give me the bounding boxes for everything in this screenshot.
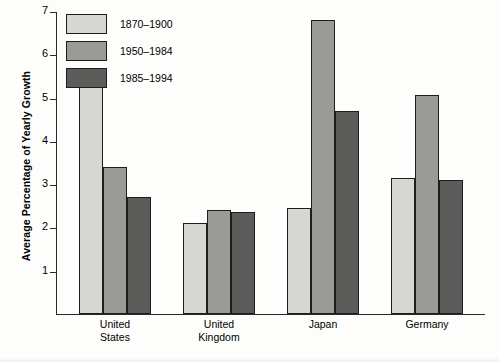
bar-japan-1950–1984 xyxy=(311,20,335,314)
y-tick-label-5: 5 xyxy=(30,91,48,103)
legend-item-2: 1985–1994 xyxy=(66,68,173,88)
bar-united-states-1870–1900 xyxy=(79,82,103,314)
bar-germany-1950–1984 xyxy=(415,95,439,314)
bar-chart: Average Percentage of Yearly Growth 7654… xyxy=(0,0,499,362)
x-label-line: Germany xyxy=(372,318,482,331)
x-label-line: Kingdom xyxy=(164,331,274,344)
bar-group-japan xyxy=(287,12,359,314)
x-label-united-states: UnitedStates xyxy=(60,318,170,343)
scan-edge-artifact xyxy=(0,356,499,362)
y-axis-title: Average Percentage of Yearly Growth xyxy=(20,36,32,296)
legend-label-0: 1870–1900 xyxy=(120,18,173,30)
y-tick-label-7: 7 xyxy=(30,4,48,16)
legend-swatch-1 xyxy=(66,41,107,61)
y-tick-6 xyxy=(50,55,57,56)
legend-swatch-2 xyxy=(66,68,107,88)
legend-swatch-0 xyxy=(66,14,107,34)
y-tick-2 xyxy=(50,228,57,229)
x-label-line: United xyxy=(60,318,170,331)
bar-group-germany xyxy=(391,12,463,314)
x-label-line: United xyxy=(164,318,274,331)
bar-japan-1870–1900 xyxy=(287,208,311,314)
bar-united-states-1985–1994 xyxy=(127,197,151,314)
y-tick-4 xyxy=(50,142,57,143)
legend-item-0: 1870–1900 xyxy=(66,14,173,34)
bar-group-united-kingdom xyxy=(183,12,255,314)
bar-germany-1870–1900 xyxy=(391,178,415,314)
legend-label-1: 1950–1984 xyxy=(120,45,173,57)
bar-united-kingdom-1950–1984 xyxy=(207,210,231,314)
y-tick-5 xyxy=(50,99,57,100)
x-label-line: States xyxy=(60,331,170,344)
y-tick-7 xyxy=(50,12,57,13)
bar-united-states-1950–1984 xyxy=(103,167,127,314)
bar-united-kingdom-1985–1994 xyxy=(231,212,255,314)
bar-germany-1985–1994 xyxy=(439,180,463,314)
y-tick-3 xyxy=(50,185,57,186)
bar-japan-1985–1994 xyxy=(335,111,359,314)
legend-label-2: 1985–1994 xyxy=(120,72,173,84)
x-label-line: Japan xyxy=(268,318,378,331)
bar-united-kingdom-1870–1900 xyxy=(183,223,207,314)
y-tick-label-2: 2 xyxy=(30,220,48,232)
y-tick-label-4: 4 xyxy=(30,134,48,146)
legend: 1870–19001950–19841985–1994 xyxy=(66,14,173,95)
y-tick-label-6: 6 xyxy=(30,47,48,59)
legend-item-1: 1950–1984 xyxy=(66,41,173,61)
x-label-japan: Japan xyxy=(268,318,378,331)
x-label-united-kingdom: UnitedKingdom xyxy=(164,318,274,343)
y-tick-label-1: 1 xyxy=(30,264,48,276)
y-tick-label-3: 3 xyxy=(30,177,48,189)
x-label-germany: Germany xyxy=(372,318,482,331)
y-tick-1 xyxy=(50,272,57,273)
